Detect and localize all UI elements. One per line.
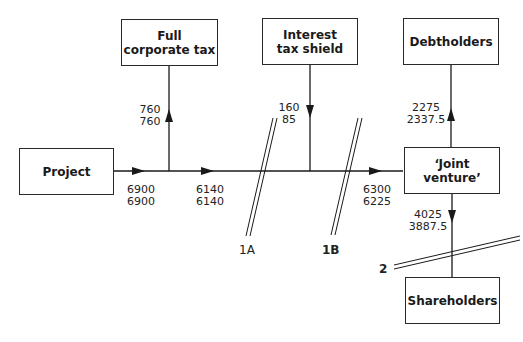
- cut-label-2: 2: [379, 262, 387, 276]
- node-project-label: Project: [42, 165, 90, 179]
- node-interest-tax-shield: Interest tax shield: [262, 18, 358, 65]
- flow-after-tax: 6140 6140: [193, 184, 227, 208]
- flow-project-out: 6900 6900: [124, 184, 158, 208]
- its-label-1: Interest: [283, 28, 337, 42]
- flow-equity: 4025 3887.5: [407, 209, 449, 233]
- flow-interest-tax-shield: 160 85: [276, 102, 302, 126]
- full-tax-label-1: Full: [157, 29, 181, 43]
- cut-label-1b: 1B: [322, 243, 340, 257]
- flow-value-b: 85: [276, 114, 302, 126]
- full-tax-label-2: corporate tax: [124, 43, 216, 57]
- node-shareholders: Shareholders: [405, 277, 500, 324]
- flow-debt: 2275 2337.5: [405, 102, 447, 126]
- flow-jv-in: 6300 6225: [360, 184, 394, 208]
- node-full-corporate-tax: Full corporate tax: [121, 19, 218, 66]
- flow-value-b: 6225: [360, 196, 394, 208]
- node-joint-venture: ‘Joint venture’: [404, 147, 500, 194]
- flow-value-b: 760: [135, 116, 165, 128]
- flow-value-b: 6140: [193, 196, 227, 208]
- node-project: Project: [19, 148, 114, 195]
- flow-value-b: 2337.5: [405, 114, 447, 126]
- flow-full-tax: 760 760: [135, 104, 165, 128]
- cut-label-1a: 1A: [239, 243, 255, 257]
- node-jv-label: ‘Joint venture’: [405, 157, 499, 185]
- flow-value-b: 3887.5: [407, 221, 449, 233]
- node-debtholders: Debtholders: [403, 18, 499, 65]
- flow-value-b: 6900: [124, 196, 158, 208]
- node-debtholders-label: Debtholders: [409, 35, 492, 49]
- its-label-2: tax shield: [277, 42, 343, 56]
- node-shareholders-label: Shareholders: [407, 294, 497, 308]
